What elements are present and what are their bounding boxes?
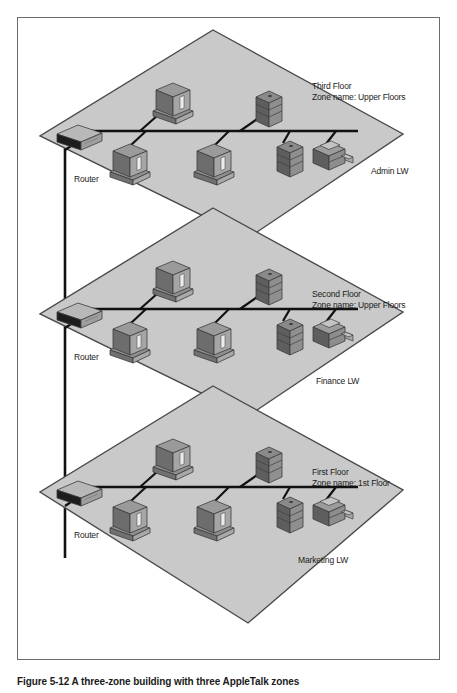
router-label-second-floor: Router	[74, 352, 99, 362]
device-third-floor-computer-lower-center	[194, 144, 234, 185]
floor-title-text: First Floor	[312, 467, 390, 478]
device-third-floor-computer-upper	[153, 83, 193, 124]
device-second-floor-computer-upper	[153, 261, 193, 302]
device-first-floor-computer-lower-center	[194, 500, 234, 541]
floor-title-second-floor: Second Floor Zone name: Upper Floors	[312, 289, 405, 311]
floor-zone-text: Zone name: 1st Floor	[312, 478, 390, 489]
router-label-third-floor: Router	[74, 174, 99, 184]
figure-frame: Third Floor Zone name: Upper Floors Rout…	[17, 17, 440, 660]
floor-title-first-floor: First Floor Zone name: 1st Floor	[312, 467, 390, 489]
floor-title-text: Second Floor	[312, 289, 405, 300]
device-first-floor-server-lower	[277, 497, 303, 533]
device-second-floor-server-lower	[277, 319, 303, 355]
figure-caption: Figure 5-12 A three-zone building with t…	[17, 676, 447, 693]
printer-label-first-floor: Marketing LW	[298, 555, 348, 565]
device-third-floor-server-upper	[256, 91, 282, 127]
device-second-floor-server-upper	[256, 269, 282, 305]
floor-zone-text: Zone name: Upper Floors	[312, 92, 405, 103]
floor-title-third-floor: Third Floor Zone name: Upper Floors	[312, 81, 405, 103]
device-second-floor-computer-lower-center	[194, 322, 234, 363]
device-first-floor-computer-upper	[153, 439, 193, 480]
device-second-floor-computer-lower-left	[110, 322, 150, 363]
device-first-floor-computer-lower-left	[110, 500, 150, 541]
device-third-floor-computer-lower-left	[110, 144, 150, 185]
device-third-floor-server-lower	[277, 141, 303, 177]
printer-label-second-floor: Finance LW	[316, 376, 359, 386]
floor-zone-text: Zone name: Upper Floors	[312, 300, 405, 311]
router-label-first-floor: Router	[74, 530, 99, 540]
network-diagram	[18, 18, 441, 661]
device-first-floor-server-upper	[256, 447, 282, 483]
printer-label-third-floor: Admin LW	[371, 166, 408, 176]
floor-title-text: Third Floor	[312, 81, 405, 92]
